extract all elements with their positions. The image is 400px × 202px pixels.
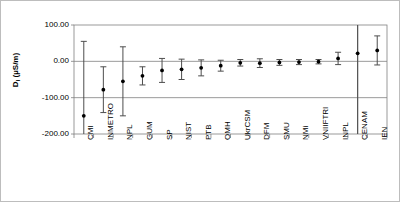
y-axis-title-base: D bbox=[11, 81, 20, 87]
x-tick-label-dfm: DFM bbox=[263, 123, 271, 140]
y-axis-title-units: (µS/m) bbox=[11, 53, 20, 80]
y-axis-tick-labels: 100.000.00-100.00-200.00 bbox=[23, 1, 69, 202]
x-tick-label-inpl: INPL bbox=[342, 122, 350, 140]
y-axis-title-subscript: l bbox=[15, 80, 21, 82]
x-tick-label-ukrcsm: UkrCSM bbox=[244, 110, 252, 140]
x-tick-label-omh: OMH bbox=[224, 121, 232, 140]
x-tick-label-ien: IEN bbox=[381, 127, 389, 140]
x-tick-label-sp: SP bbox=[166, 129, 174, 140]
y-tick-label: 0.00 bbox=[53, 57, 69, 65]
y-tick-label: -100.00 bbox=[42, 94, 69, 102]
chart-frame: 100.000.00-100.00-200.00 Dl (µS/m) CMIIN… bbox=[0, 0, 400, 202]
x-tick-label-inmetro: INMETRO bbox=[107, 103, 115, 140]
x-tick-label-cmi: CMI bbox=[87, 125, 95, 140]
y-tick-label: -200.00 bbox=[42, 130, 69, 138]
x-tick-label-nist: NIST bbox=[185, 122, 193, 140]
y-tick-label: 100.00 bbox=[45, 21, 69, 29]
x-tick-label-ptb: PTB bbox=[205, 124, 213, 140]
x-tick-label-gum: GUM bbox=[146, 121, 154, 140]
x-tick-label-npl: NPL bbox=[126, 124, 134, 140]
x-tick-label-nmi: NMi bbox=[302, 126, 310, 140]
x-tick-label-cenam: CENAM bbox=[361, 111, 369, 140]
x-tick-label-smu: SMU bbox=[283, 122, 291, 140]
y-axis-title: Dl (µS/m) bbox=[7, 35, 23, 105]
x-tick-label-vniiftri: VNIIFTRI bbox=[322, 107, 330, 140]
